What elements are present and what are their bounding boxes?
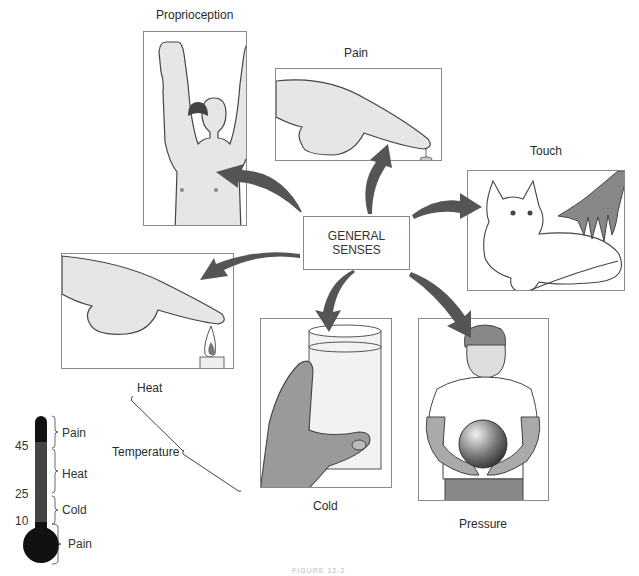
tick-10: 10	[15, 514, 28, 528]
tick-45: 45	[15, 439, 28, 453]
arrow-to-cold-icon	[315, 270, 355, 332]
arrow-to-pain-icon	[365, 144, 392, 214]
range-pain-top: Pain	[62, 426, 86, 440]
arrows-layer	[0, 0, 639, 576]
thermometer-icon	[23, 416, 61, 564]
arrow-to-pressure-icon	[409, 272, 471, 338]
arrow-to-heat-icon	[200, 252, 300, 280]
temperature-bracket-icon	[131, 396, 241, 491]
arrow-to-proprioception-icon	[216, 164, 302, 212]
range-heat: Heat	[62, 467, 87, 481]
figure-caption: FIGURE 12-2	[292, 567, 345, 574]
range-pain-bottom: Pain	[68, 537, 92, 551]
arrow-to-touch-icon	[412, 193, 482, 219]
tick-25: 25	[15, 487, 28, 501]
range-cold: Cold	[62, 503, 87, 517]
